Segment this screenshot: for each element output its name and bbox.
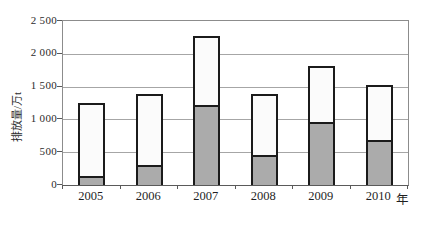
bar-2005 <box>78 103 105 185</box>
y-tick-mark-1500 <box>57 86 62 87</box>
bar-2009 <box>308 66 335 185</box>
bar-2006-upper-segment <box>136 94 163 165</box>
x-tick-mark-0 <box>62 185 63 189</box>
y-tick-label-1000: 1 000 <box>23 113 57 124</box>
y-tick-label-500: 500 <box>23 146 57 157</box>
x-tick-mark-3 <box>235 185 236 189</box>
bar-2008 <box>251 94 278 185</box>
bar-2007-lower-segment <box>193 105 220 185</box>
y-tick-mark-2000 <box>57 53 62 54</box>
bar-2010 <box>366 85 393 185</box>
emissions-stacked-bar-chart: 排放量/万t 年 20052006200720082009201005001 0… <box>0 0 421 226</box>
bar-2007 <box>193 36 220 185</box>
x-tick-label-2009: 2009 <box>292 189 350 204</box>
y-tick-mark-2500 <box>57 20 62 21</box>
bar-2006-lower-segment <box>136 165 163 185</box>
x-tick-label-2008: 2008 <box>235 189 293 204</box>
bar-2010-upper-segment <box>366 85 393 140</box>
bar-2008-lower-segment <box>251 155 278 185</box>
y-tick-label-1500: 1 500 <box>23 80 57 91</box>
x-tick-mark-5 <box>350 185 351 189</box>
bar-2009-upper-segment <box>308 66 335 122</box>
bar-2005-lower-segment <box>78 176 105 185</box>
y-axis-title: 排放量/万t <box>8 84 24 150</box>
x-tick-mark-6 <box>407 185 408 189</box>
x-tick-mark-2 <box>177 185 178 189</box>
x-tick-mark-1 <box>120 185 121 189</box>
bar-2006 <box>136 94 163 185</box>
gridline-2000 <box>63 54 408 55</box>
plot-area <box>62 20 409 186</box>
y-tick-mark-500 <box>57 151 62 152</box>
bar-2007-upper-segment <box>193 36 220 105</box>
gridline-500 <box>63 152 408 153</box>
y-tick-mark-1000 <box>57 118 62 119</box>
y-tick-label-2000: 2 000 <box>23 47 57 58</box>
y-tick-label-0: 0 <box>23 179 57 190</box>
x-tick-label-2006: 2006 <box>120 189 178 204</box>
bar-2008-upper-segment <box>251 94 278 155</box>
x-tick-label-2010: 2010 <box>350 189 408 204</box>
x-tick-mark-4 <box>292 185 293 189</box>
gridline-1500 <box>63 87 408 88</box>
bar-2005-upper-segment <box>78 103 105 176</box>
x-tick-label-2005: 2005 <box>62 189 120 204</box>
x-tick-label-2007: 2007 <box>177 189 235 204</box>
y-tick-label-2500: 2 500 <box>23 15 57 26</box>
bar-2009-lower-segment <box>308 122 335 185</box>
bar-2010-lower-segment <box>366 140 393 185</box>
gridline-1000 <box>63 119 408 120</box>
